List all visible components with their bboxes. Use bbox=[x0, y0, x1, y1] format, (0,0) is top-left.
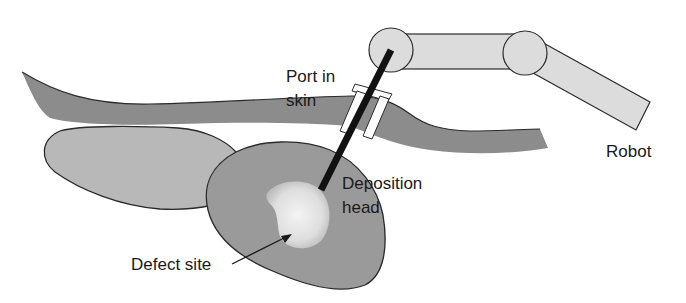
label-deposition-line1: Deposition bbox=[342, 174, 422, 193]
label-robot: Robot bbox=[606, 142, 652, 161]
diagram-canvas: Port in skin Robot Deposition head Defec… bbox=[0, 0, 686, 303]
robot-elbow-joint bbox=[503, 31, 547, 75]
label-deposition-line2: head bbox=[342, 198, 380, 217]
label-port-line1: Port in bbox=[286, 67, 335, 86]
label-defect-site: Defect site bbox=[131, 255, 211, 274]
label-port-line2: skin bbox=[286, 91, 316, 110]
